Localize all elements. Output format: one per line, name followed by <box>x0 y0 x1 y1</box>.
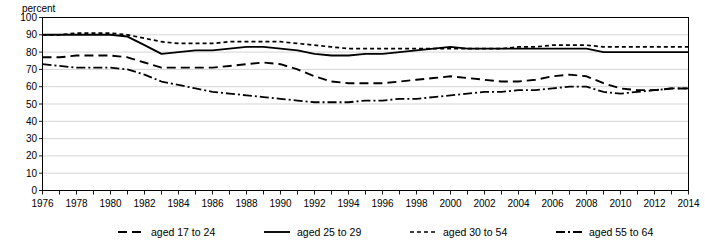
x-axis-tick-label: 2002 <box>473 198 496 209</box>
x-axis-tick-label: 2006 <box>541 198 564 209</box>
series-line-aged-30-to-54 <box>43 33 689 49</box>
x-axis-tick-label: 2000 <box>439 198 462 209</box>
y-axis-ticks: 0102030405060708090100 <box>20 12 42 196</box>
y-axis-tick-label: 100 <box>20 12 37 23</box>
x-axis-tick-label: 1976 <box>31 198 54 209</box>
x-axis-tick-label: 2004 <box>507 198 530 209</box>
employment-rate-line-chart: percent 0102030405060708090100 197619781… <box>0 0 705 251</box>
x-axis-tick-label: 2012 <box>643 198 666 209</box>
y-axis-tick-label: 40 <box>26 116 38 127</box>
legend-label: aged 30 to 54 <box>443 226 507 238</box>
x-axis-tick-label: 1998 <box>405 198 428 209</box>
y-axis-tick-label: 0 <box>31 185 37 196</box>
y-axis-tick-label: 80 <box>26 47 38 58</box>
legend-label: aged 25 to 29 <box>297 226 361 238</box>
x-axis-tick-label: 1986 <box>201 198 224 209</box>
y-axis-tick-label: 50 <box>26 99 38 110</box>
x-axis-tick-label: 2014 <box>677 198 700 209</box>
y-axis-tick-label: 60 <box>26 81 38 92</box>
x-axis-ticks: 1976197819801982198419861988199019921994… <box>31 191 700 209</box>
chart-container: percent 0102030405060708090100 197619781… <box>0 0 705 251</box>
y-axis-tick-label: 10 <box>26 168 38 179</box>
x-axis-tick-label: 1978 <box>65 198 88 209</box>
x-axis-tick-label: 1980 <box>99 198 122 209</box>
legend-label: aged 55 to 64 <box>589 226 653 238</box>
x-axis-tick-label: 1988 <box>235 198 258 209</box>
x-axis-tick-label: 1996 <box>371 198 394 209</box>
y-axis-tick-label: 30 <box>26 133 38 144</box>
x-axis-tick-label: 1982 <box>133 198 156 209</box>
y-axis-tick-label: 70 <box>26 64 38 75</box>
x-axis-tick-label: 1984 <box>167 198 190 209</box>
x-axis-tick-label: 1994 <box>337 198 360 209</box>
legend-label: aged 17 to 24 <box>151 226 215 238</box>
x-axis-tick-label: 2008 <box>575 198 598 209</box>
series-line-aged-25-to-29 <box>43 35 689 56</box>
x-axis-tick-label: 1990 <box>269 198 292 209</box>
y-axis-tick-label: 90 <box>26 29 38 40</box>
x-axis-tick-label: 2010 <box>609 198 632 209</box>
data-series-group <box>43 33 689 102</box>
y-axis-tick-label: 20 <box>26 150 38 161</box>
x-axis-tick-label: 1992 <box>303 198 326 209</box>
chart-legend: aged 17 to 24aged 25 to 29aged 30 to 54a… <box>118 226 653 238</box>
gridlines <box>43 35 689 173</box>
